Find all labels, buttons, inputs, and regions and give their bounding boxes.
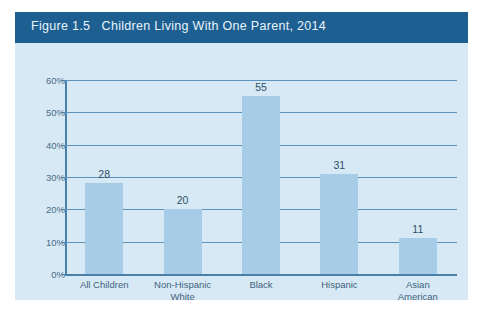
chart-plot-region: 0%10%20%30%40%50%60% 2820553111 All Chil… [15,43,468,300]
x-axis-tick-label: Hispanic [321,279,357,291]
bar-group: 11 [379,80,457,274]
figure-title-bar: Figure 1.5 Children Living With One Pare… [15,12,468,43]
y-axis-tick-label: 50% [31,107,65,118]
bar-group: 31 [300,80,378,274]
y-axis-labels: 0%10%20%30%40%50%60% [23,43,65,300]
bar [242,96,280,274]
bar-series: 2820553111 [65,80,457,274]
page-title: Figure 1.5 Children Living With One Pare… [31,19,326,33]
bar [399,238,437,274]
bar-value-label: 11 [412,223,423,235]
bar [320,174,358,274]
x-axis-tick-label: AsianAmerican [398,279,438,303]
x-axis-labels: All ChildrenNon-HispanicWhiteBlackHispan… [65,279,457,319]
x-axis-baseline [65,274,457,276]
bar-group: 20 [143,80,221,274]
x-axis-tick-label: All Children [80,279,129,291]
y-axis-tick-label: 30% [31,172,65,183]
plot-area: 2820553111 [65,80,457,274]
x-axis-tick-label: Black [249,279,272,291]
bar [164,209,202,274]
bar-value-label: 31 [334,159,346,171]
y-axis-tick-label: 20% [31,204,65,215]
figure-panel: Figure 1.5 Children Living With One Pare… [15,12,468,300]
x-axis-tick-label: Non-HispanicWhite [154,279,211,303]
y-axis-tick-label: 40% [31,139,65,150]
bar-group: 28 [65,80,143,274]
y-axis-tick-label: 60% [31,75,65,86]
y-axis-tick-label: 0% [31,269,65,280]
bar [85,183,123,274]
bar-value-label: 55 [255,81,267,93]
y-axis-tick-label: 10% [31,236,65,247]
y-axis-tick-mark [61,274,65,275]
bar-group: 55 [222,80,300,274]
bar-value-label: 28 [98,168,110,180]
bar-value-label: 20 [177,194,189,206]
